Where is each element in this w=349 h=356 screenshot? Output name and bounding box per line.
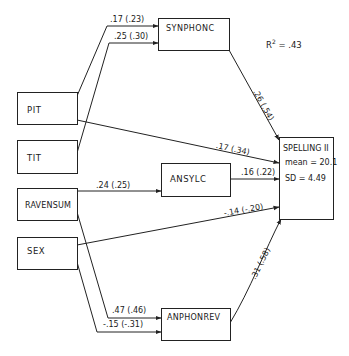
coef-ravensum-anphonrev: .47 (.46) [112,306,146,315]
node-synphonc-label: SYNPHONC [166,24,215,33]
node-ravensum: RAVENSUM [17,188,78,221]
coef-ansylc-spelling: .16 (.22) [241,168,275,177]
coef-sex-anphonrev: -.15 (-.31) [103,320,143,329]
node-spelling: SPELLING II mean = 20.1 SD = 4.49 [279,137,334,220]
r-squared: R2 = .43 [266,38,302,50]
node-pit: PIT [17,92,78,125]
spelling-title: SPELLING II [283,144,329,153]
node-tit: TIT [17,140,78,174]
spelling-sd: SD = 4.49 [285,174,326,183]
node-ansylc-label: ANSYLC [170,174,206,184]
node-ravensum-label: RAVENSUM [25,201,71,210]
spelling-mean: mean = 20.1 [285,158,337,167]
r-squared-exponent: 2 [272,38,276,45]
r-squared-value: = .43 [278,40,301,50]
node-tit-label: TIT [27,153,41,163]
coef-ravensum-ansylc: .24 (.25) [96,181,130,190]
node-synphonc: SYNPHONC [158,18,230,51]
arrow-ravensum-anphonrev [77,212,161,318]
node-ansylc: ANSYLC [161,163,231,197]
arrow-tit-synphonc [77,43,158,153]
coef-tit-synphonc: .25 (.30) [114,32,148,41]
node-anphonrev: ANPHONREV [161,308,231,341]
node-pit-label: PIT [27,105,41,115]
node-sex-label: SEX [27,246,45,256]
node-anphonrev-label: ANPHONREV [167,313,220,322]
coef-pit-synphonc: .17 (.23) [110,15,144,24]
node-sex: SEX [17,237,78,270]
